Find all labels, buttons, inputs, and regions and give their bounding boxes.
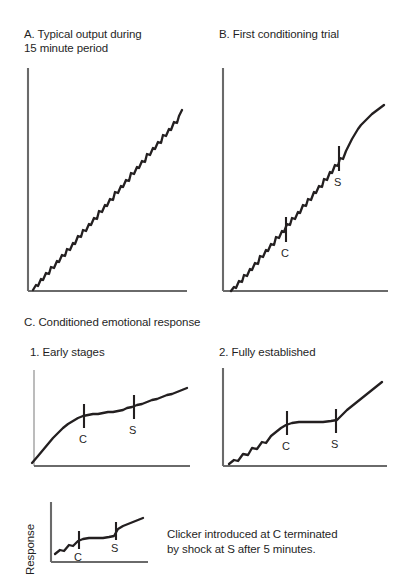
panel-a-curve <box>33 110 182 290</box>
panel-c1-marker-c: C <box>79 404 87 445</box>
legend-axes <box>51 502 148 562</box>
panel-b-plot: C S <box>219 66 391 298</box>
panel-c2-marker-s: S <box>331 409 338 450</box>
panel-b-axes <box>223 68 388 291</box>
panel-a-plot <box>24 66 190 298</box>
panel-b-title: B. First conditioning trial <box>219 27 394 41</box>
legend-svg: C S <box>46 500 151 568</box>
panel-c2-curve <box>229 382 382 464</box>
panel-a-svg <box>24 66 190 298</box>
panel-c1: 1. Early stages <box>30 345 190 359</box>
panel-c2-marker-s-label: S <box>331 438 338 450</box>
panel-a-axes <box>28 68 187 291</box>
panel-b: B. First conditioning trial <box>219 27 394 41</box>
panel-c2-svg: C S <box>219 366 391 476</box>
panel-c2-title: 2. Fully established <box>219 345 389 359</box>
panel-c1-svg: C S <box>30 366 195 476</box>
panel-c1-marker-s: S <box>129 395 136 436</box>
panel-c2-marker-c: C <box>282 411 290 452</box>
legend-marker-s-label: S <box>111 542 118 554</box>
panel-c2-marker-c-label: C <box>282 440 290 452</box>
legend-marker-s: S <box>111 522 118 554</box>
panel-b-curve <box>231 105 384 291</box>
panel-c1-axes <box>34 370 190 466</box>
panel-c1-curve <box>32 388 187 463</box>
panel-a: A. Typical output during 15 minute perio… <box>24 27 199 55</box>
panel-c2-axes <box>223 368 387 466</box>
panel-c2-plot: C S <box>219 366 391 476</box>
legend-marker-c-label: C <box>74 551 82 563</box>
panel-c1-title: 1. Early stages <box>30 345 190 359</box>
panel-c1-marker-c-label: C <box>79 433 87 445</box>
panel-c-section-title: C. Conditioned emotional response <box>24 315 200 329</box>
panel-c1-plot: C S <box>30 366 195 476</box>
panel-b-marker-s-label: S <box>334 176 341 188</box>
panel-b-marker-c-label: C <box>281 247 289 259</box>
legend-plot: C S <box>46 500 151 568</box>
legend-caption: Clicker introduced at C terminated by sh… <box>167 527 392 557</box>
panel-b-svg: C S <box>219 66 391 298</box>
legend-y-axis-label: Response <box>24 524 36 575</box>
panel-c2: 2. Fully established <box>219 345 389 359</box>
legend-marker-c: C <box>74 531 82 563</box>
panel-c1-marker-s-label: S <box>129 424 136 436</box>
panel-a-title: A. Typical output during 15 minute perio… <box>24 27 199 55</box>
legend-curve <box>55 518 143 554</box>
